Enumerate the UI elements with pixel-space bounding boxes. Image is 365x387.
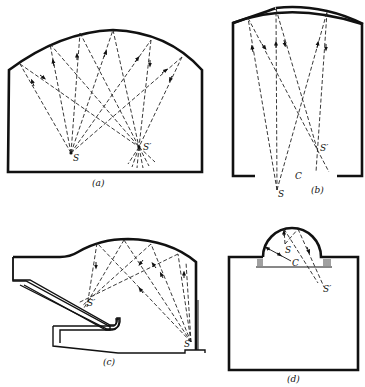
panel-c: S′ S (c) [13, 239, 205, 367]
panel-a-caption: (a) [92, 178, 105, 188]
panel-a-room-outline [8, 30, 202, 172]
panel-c-caption: (c) [103, 357, 116, 367]
panel-b-source-label: S [278, 189, 284, 199]
panel-a-image-label: S′ [143, 142, 151, 152]
panel-b-caption: (b) [311, 185, 324, 195]
panel-a-rays [20, 30, 182, 168]
panel-b: S S′ C (b) [233, 7, 363, 199]
panel-d-room-outline [229, 228, 358, 370]
panel-d-center-label: C [292, 258, 299, 268]
panel-d-source-label: S [285, 245, 291, 255]
panel-b-center-label: C [295, 171, 302, 181]
panel-a-source-label: S [73, 153, 79, 163]
panel-a-image-point [137, 145, 140, 148]
panel-b-room-outline [233, 7, 363, 176]
panel-d-caption: (d) [287, 374, 300, 384]
panel-b-image-label: S′ [320, 143, 328, 153]
panel-b-rays [248, 9, 329, 190]
panel-d-image-label: S′ [323, 284, 331, 294]
panel-c-balcony [13, 257, 119, 330]
panel-d: S C S′ (d) [229, 228, 358, 384]
panel-c-source-label: S [184, 339, 190, 349]
panel-c-image-label: S′ [87, 298, 95, 308]
panel-a: S S′ (a) [8, 30, 202, 188]
acoustic-focusing-figure: S S′ (a) S S′ C (b) [0, 0, 365, 387]
